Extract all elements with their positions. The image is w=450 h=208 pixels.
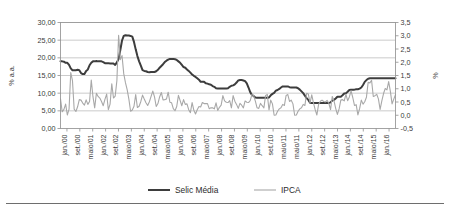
- left-axis-tick-label: 30,00: [38, 18, 56, 27]
- x-axis-tick-label: jan./06: [177, 134, 185, 156]
- x-axis-tick-label: maio/03: [125, 134, 132, 159]
- x-axis-tick-label: set./06: [190, 134, 197, 155]
- left-axis-tick-label: 25,00: [38, 36, 56, 45]
- left-axis-tick-label: 10,00: [38, 89, 56, 98]
- x-axis-tick-label: set./12: [319, 134, 326, 155]
- x-axis-tick-label: maio/09: [241, 134, 248, 159]
- x-axis-tick-label: set./10: [267, 134, 274, 155]
- left-axis-tick-label: 5,00: [42, 106, 56, 115]
- legend: Selic MédiaIPCA: [148, 185, 301, 195]
- x-axis-tick-label: jan./04: [138, 134, 146, 156]
- right-axis-tick-label: -0,5: [401, 124, 413, 133]
- x-axis-tick-label: maio/01: [87, 134, 94, 159]
- right-axis-tick-label: 1,5: [401, 71, 411, 80]
- x-axis-tick-label: set./04: [151, 134, 158, 155]
- right-axis: -0,50,00,51,01,52,02,53,03,5: [396, 18, 413, 133]
- chart-figure: 0,005,0010,0015,0020,0025,0030,00% a.a.-…: [0, 0, 450, 208]
- x-axis-tick-label: set./08: [228, 134, 235, 155]
- x-axis-tick-label: jan./14: [344, 134, 352, 156]
- x-axis-tick-label: maio/07: [203, 134, 210, 159]
- right-axis-title: %: [431, 72, 440, 79]
- right-axis-tick-label: 2,5: [401, 45, 411, 54]
- x-axis-tick-label: jan./00: [61, 134, 69, 156]
- left-axis-tick-label: 20,00: [38, 53, 56, 62]
- x-axis-tick-label: maio/11: [280, 134, 287, 158]
- left-axis-tick-label: 0,00: [42, 124, 56, 133]
- selic-ipca-line-chart: 0,005,0010,0015,0020,0025,0030,00% a.a.-…: [0, 0, 450, 208]
- x-axis-tick-label: jan./02: [100, 134, 108, 156]
- legend-label-0: Selic Média: [175, 185, 219, 195]
- left-axis-title: % a.a.: [7, 65, 16, 85]
- right-axis-tick-label: 1,0: [401, 84, 411, 93]
- legend-label-1: IPCA: [281, 185, 301, 195]
- x-axis-tick-label: set./14: [357, 134, 364, 155]
- x-axis-tick-label: maio/05: [164, 134, 171, 159]
- right-axis-tick-label: 3,0: [401, 31, 411, 40]
- left-axis: 0,005,0010,0015,0020,0025,0030,00: [38, 18, 61, 133]
- x-axis-tick-label: set./02: [112, 134, 119, 155]
- x-axis-tick-label: jan./10: [254, 134, 262, 156]
- x-axis-tick-label: jan./12: [306, 134, 314, 156]
- right-axis-tick-label: 0,0: [401, 111, 411, 120]
- x-axis-tick-label: maio/11: [293, 134, 300, 158]
- left-axis-tick-label: 15,00: [38, 71, 56, 80]
- right-axis-tick-label: 2,0: [401, 58, 411, 67]
- x-axis-tick-label: jan./16: [383, 134, 391, 156]
- x-axis-tick-label: maio/15: [370, 134, 377, 159]
- x-axis-tick-label: set./00: [74, 134, 81, 155]
- right-axis-tick-label: 0,5: [401, 98, 411, 107]
- x-axis-tick-label: jan./08: [216, 134, 224, 156]
- right-axis-tick-label: 3,5: [401, 18, 411, 27]
- x-axis: jan./00set./00maio/01jan./02set./02maio/…: [61, 129, 391, 160]
- x-axis-tick-label: maio/13: [332, 134, 339, 159]
